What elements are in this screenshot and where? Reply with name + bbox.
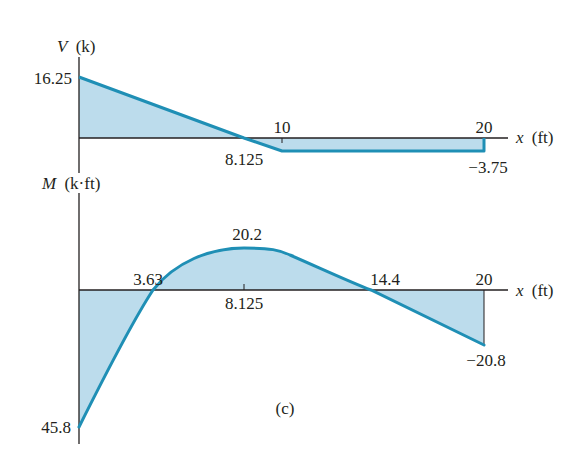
shear-diagram: V (k) 16.25 10 20 8.125 −3.75 x (ft) bbox=[34, 37, 554, 177]
shear-moment-diagram: V (k) 16.25 10 20 8.125 −3.75 x (ft) M (… bbox=[0, 0, 584, 459]
shear-start-value: 16.25 bbox=[34, 69, 72, 88]
shear-tick-label-10: 10 bbox=[274, 118, 291, 137]
moment-second-zero: 14.4 bbox=[370, 270, 400, 289]
shear-zero-crossing: 8.125 bbox=[225, 150, 263, 169]
moment-max-value: 20.2 bbox=[232, 225, 262, 244]
shear-x-axis-title: x (ft) bbox=[515, 128, 554, 147]
figure-label: (c) bbox=[276, 399, 295, 418]
moment-diagram: M (k·ft) 20.2 3.63 8.125 14.4 20 −20.8 4… bbox=[41, 174, 554, 444]
shear-tick-label-20: 20 bbox=[476, 118, 493, 137]
shear-axis-title: V (k) bbox=[57, 37, 95, 56]
shear-end-value: −3.75 bbox=[468, 158, 507, 177]
moment-tick-label-20: 20 bbox=[476, 270, 493, 289]
moment-axis-title: M (k·ft) bbox=[41, 174, 100, 193]
moment-end-value: −20.8 bbox=[466, 351, 505, 370]
moment-x-axis-title: x (ft) bbox=[515, 281, 554, 300]
moment-max-location: 8.125 bbox=[225, 294, 263, 313]
moment-first-zero: 3.63 bbox=[133, 270, 163, 289]
moment-start-value: 45.8 bbox=[41, 418, 71, 437]
